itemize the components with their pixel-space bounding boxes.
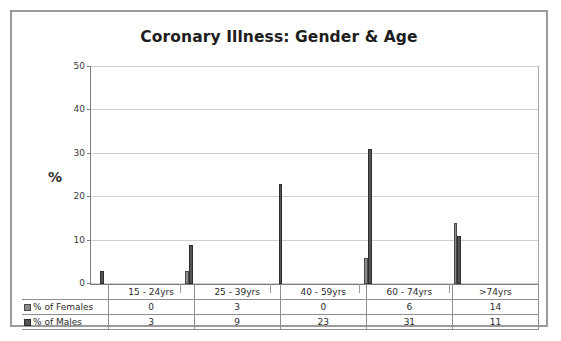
bar-group — [449, 67, 538, 284]
chart-frame: Coronary Illness: Gender & Age % 0 10 20… — [10, 10, 548, 327]
table-cell-males-0: 3 — [108, 315, 194, 330]
bar-males-4 — [457, 236, 461, 284]
table-row-categories: 15 - 24yrs 25 - 39yrs 40 - 59yrs 60 - 74… — [22, 285, 539, 300]
table-cell-males-3: 31 — [366, 315, 452, 330]
y-tick-label-30: 30 — [74, 148, 85, 158]
bar-males-2 — [279, 184, 283, 284]
bar-group — [91, 67, 180, 284]
table-row-males: % of Males 3 9 23 31 11 — [22, 315, 539, 330]
legend-swatch-males-icon — [24, 319, 31, 326]
legend-label-males: % of Males — [33, 317, 82, 327]
bar-group — [359, 67, 448, 284]
table-header-cat-2: 40 - 59yrs — [280, 285, 366, 300]
bar-males-1 — [189, 245, 193, 284]
table-cell-females-2: 0 — [280, 300, 366, 315]
table-cell-females-1: 3 — [194, 300, 280, 315]
chart-title: Coronary Illness: Gender & Age — [12, 28, 546, 46]
bar-males-3 — [368, 149, 372, 284]
bar-group — [270, 67, 359, 284]
table-header-cat-1: 25 - 39yrs — [194, 285, 280, 300]
table-header-cat-3: 60 - 74yrs — [366, 285, 452, 300]
y-axis-label: % — [43, 169, 67, 185]
y-tick-label-10: 10 — [74, 235, 85, 245]
table-cell-males-4: 11 — [452, 315, 538, 330]
legend-item-females: % of Females — [22, 300, 108, 315]
legend-swatch-females-icon — [24, 304, 31, 311]
table-cell-females-0: 0 — [108, 300, 194, 315]
table-header-cat-4: >74yrs — [452, 285, 538, 300]
table-header-cat-0: 15 - 24yrs — [108, 285, 194, 300]
legend-item-males: % of Males — [22, 315, 108, 330]
table-corner-cell — [22, 285, 108, 300]
data-table: 15 - 24yrs 25 - 39yrs 40 - 59yrs 60 - 74… — [22, 285, 539, 330]
y-tick-label-50: 50 — [74, 61, 85, 71]
legend-label-females: % of Females — [33, 302, 93, 312]
table-row-females: % of Females 0 3 0 6 14 — [22, 300, 539, 315]
y-tick-label-20: 20 — [74, 191, 85, 201]
bar-group — [180, 67, 269, 284]
y-tick-label-40: 40 — [74, 104, 85, 114]
table-cell-females-4: 14 — [452, 300, 538, 315]
table-cell-females-3: 6 — [366, 300, 452, 315]
table-cell-males-2: 23 — [280, 315, 366, 330]
bar-males-0 — [100, 271, 104, 284]
table-cell-males-1: 9 — [194, 315, 280, 330]
plot-area: 0 10 20 30 40 50 — [90, 66, 539, 285]
